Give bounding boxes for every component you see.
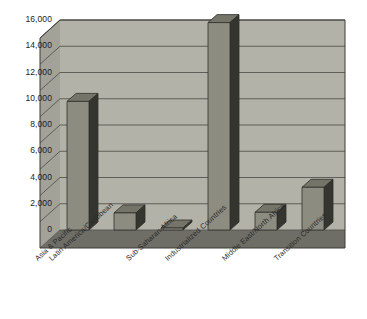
y-axis: 16,000 14,000 12,000 10,000 8,000 6,000 …	[2, 0, 52, 319]
y-tick-2000: 2,000	[6, 199, 52, 208]
bar-industrialized-countries	[208, 15, 239, 230]
bar-asia-pacific	[67, 93, 98, 230]
y-tick-14000: 14,000	[6, 41, 52, 50]
y-tick-4000: 4,000	[6, 173, 52, 182]
plot-area	[0, 0, 367, 319]
bar-chart: 16,000 14,000 12,000 10,000 8,000 6,000 …	[0, 0, 367, 319]
y-tick-6000: 6,000	[6, 146, 52, 155]
y-tick-10000: 10,000	[6, 94, 52, 103]
y-tick-8000: 8,000	[6, 120, 52, 129]
y-tick-12000: 12,000	[6, 68, 52, 77]
bar-latin-america-caribbean	[114, 205, 145, 230]
chart-canvas	[0, 0, 367, 319]
y-tick-0: 0	[6, 225, 52, 234]
y-tick-16000: 16,000	[6, 15, 52, 24]
